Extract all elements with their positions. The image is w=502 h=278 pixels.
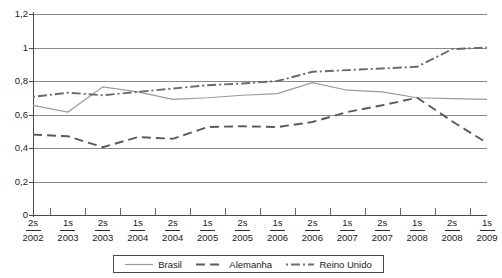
series-line-alemanha	[33, 98, 487, 147]
x-label-separator	[375, 230, 390, 231]
x-label-separator	[445, 230, 460, 231]
y-axis-tickmark	[29, 182, 34, 183]
dashed-line-swatch	[196, 260, 224, 269]
legend-label: Reino Unido	[319, 259, 371, 270]
x-label-separator	[340, 230, 355, 231]
y-axis-tickmark	[29, 115, 34, 116]
legend-label: Alemanha	[229, 259, 272, 270]
y-axis-tickmark	[29, 14, 34, 15]
legend-item-alemanha[interactable]: Alemanha	[196, 259, 272, 270]
x-label-separator	[95, 230, 110, 231]
x-label-separator	[270, 230, 285, 231]
x-label-separator	[60, 230, 75, 231]
x-label-separator	[480, 230, 495, 231]
x-axis-labels: 2s20021s20032s20031s20042s20041s20052s20…	[0, 217, 497, 251]
legend-label: Brasil	[158, 259, 182, 270]
legend-item-brasil[interactable]: Brasil	[125, 259, 182, 270]
solid-line-swatch	[125, 260, 153, 269]
x-label-separator	[165, 230, 180, 231]
series-line-reino-unido	[33, 48, 487, 97]
y-axis-tickmark	[29, 148, 34, 149]
y-axis-tickmark	[29, 48, 34, 49]
x-label-separator	[130, 230, 145, 231]
y-axis-tickmark	[29, 215, 34, 216]
x-label-separator	[410, 230, 425, 231]
chart-legend: BrasilAlemanhaReino Unido	[113, 255, 384, 273]
series-line-brasil	[33, 83, 487, 112]
x-label-separator	[26, 230, 41, 231]
x-label-separator	[235, 230, 250, 231]
y-axis-tickmark	[29, 81, 34, 82]
x-axis-tick-label: 1s2009	[465, 217, 502, 244]
dash-dot-line-swatch	[286, 260, 314, 269]
x-label-separator	[200, 230, 215, 231]
x-label-separator	[305, 230, 320, 231]
x-label-year: 2009	[465, 232, 502, 244]
x-label-semester: 1s	[465, 217, 502, 229]
legend-item-reino-unido[interactable]: Reino Unido	[286, 259, 371, 270]
